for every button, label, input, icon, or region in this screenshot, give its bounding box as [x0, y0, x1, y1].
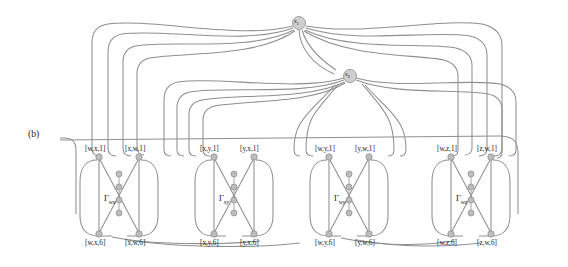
label-wz-top-left: [w,z,1] — [437, 145, 457, 153]
label-xy-top-left: [x,y,1] — [200, 145, 219, 153]
label-wy-top-right: [y,w,1] — [355, 145, 375, 153]
label-xy-bottom-left: [x,y,6] — [200, 239, 219, 247]
label-wx-top-right: [x,w,1] — [125, 145, 145, 153]
label-wy-bottom-right: [y,w,6] — [355, 239, 375, 247]
diagram-canvas: .edge{fill:none;stroke:#8f8f8f;stroke-wi… — [0, 0, 568, 267]
gadget-xy — [211, 154, 257, 237]
label-wx-top-left: [w,x,1] — [85, 145, 105, 153]
label-wz-bottom-right: [z,w,6] — [477, 239, 497, 247]
label-wy-bottom-left: [w,y,6] — [315, 239, 335, 247]
label-wx-bottom-left: [w,x,6] — [85, 239, 105, 247]
label-wy-top-left: [w,y,1] — [315, 145, 335, 153]
figure-root: .edge{fill:none;stroke:#8f8f8f;stroke-wi… — [0, 0, 568, 267]
label-wx-bottom-right: [x,w,6] — [125, 239, 145, 247]
label-wz-bottom-left: [w,z,6] — [437, 239, 457, 247]
label-wz-top-right: [z,w,1] — [477, 145, 497, 153]
gadget-wx — [96, 154, 142, 237]
source-label-s1: s1 — [294, 17, 299, 26]
gadget-wz — [448, 154, 494, 237]
label-xy-top-right: [y,x,1] — [240, 145, 259, 153]
gamma-label-wx: Γwx — [104, 194, 116, 205]
gamma-label-xy: Γxy — [219, 194, 229, 205]
panel-label: (b) — [28, 129, 39, 139]
gadget-wy — [326, 154, 372, 237]
gamma-label-wy: Γwy — [334, 194, 346, 205]
gamma-label-wz: Γwz — [456, 194, 467, 205]
source-label-s2: s2 — [345, 70, 350, 79]
label-xy-bottom-right: [y,x,6] — [240, 239, 259, 247]
